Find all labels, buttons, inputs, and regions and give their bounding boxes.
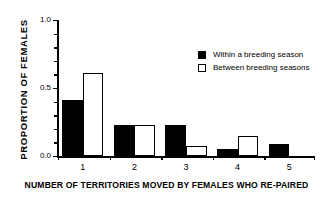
x-tick bbox=[264, 156, 265, 160]
y-tick-major bbox=[53, 156, 57, 157]
bar-solid-cat-5 bbox=[269, 144, 290, 156]
x-tick bbox=[58, 156, 59, 160]
y-tick-minor bbox=[54, 61, 57, 62]
x-tick bbox=[213, 156, 214, 160]
x-tick-label: 5 bbox=[279, 162, 299, 172]
y-tick-label: 1.0 bbox=[29, 16, 51, 24]
x-tick bbox=[110, 156, 111, 160]
bar-solid-cat-2 bbox=[114, 125, 135, 156]
legend-label-between: Between breeding seasons bbox=[213, 63, 310, 72]
bar-chart-figure: PROPORTION OF FEMALES 0.00.51.012345 Wit… bbox=[0, 0, 333, 197]
bar-solid-cat-1 bbox=[62, 100, 83, 156]
y-tick-minor bbox=[54, 129, 57, 130]
y-tick-major bbox=[53, 88, 57, 89]
bar-hollow-cat-3 bbox=[186, 146, 207, 156]
y-tick-minor bbox=[54, 47, 57, 48]
y-tick-minor bbox=[54, 74, 57, 75]
x-tick-label: 1 bbox=[73, 162, 93, 172]
legend-label-within: Within a breeding season bbox=[213, 50, 303, 59]
plot-area: 0.00.51.012345 bbox=[57, 20, 315, 156]
bar-solid-cat-3 bbox=[165, 125, 186, 156]
y-tick-minor bbox=[54, 34, 57, 35]
y-tick-minor bbox=[54, 142, 57, 143]
x-axis-line bbox=[57, 156, 315, 158]
bar-solid-cat-4 bbox=[217, 149, 238, 156]
x-tick-label: 2 bbox=[124, 162, 144, 172]
x-tick-label: 3 bbox=[176, 162, 196, 172]
bar-hollow-cat-2 bbox=[134, 125, 155, 156]
bar-hollow-cat-1 bbox=[83, 73, 104, 156]
legend-item-between: Between breeding seasons bbox=[198, 61, 310, 74]
x-tick bbox=[161, 156, 162, 160]
x-tick bbox=[314, 156, 315, 160]
y-tick-minor bbox=[54, 115, 57, 116]
y-axis-title: PROPORTION OF FEMALES bbox=[18, 15, 29, 165]
y-tick-label: 0.5 bbox=[29, 84, 51, 92]
x-axis-title: NUMBER OF TERRITORIES MOVED BY FEMALES W… bbox=[0, 180, 333, 190]
y-tick-major bbox=[53, 20, 57, 21]
x-tick-label: 4 bbox=[228, 162, 248, 172]
bar-hollow-cat-4 bbox=[238, 136, 259, 156]
legend-swatch-filled-icon bbox=[198, 51, 206, 59]
legend-item-within: Within a breeding season bbox=[198, 48, 310, 61]
y-tick-label: 0.0 bbox=[29, 152, 51, 160]
legend-swatch-hollow-icon bbox=[198, 64, 206, 72]
y-axis-line bbox=[57, 20, 59, 157]
chart-legend: Within a breeding season Between breedin… bbox=[198, 48, 310, 74]
y-tick-minor bbox=[54, 102, 57, 103]
